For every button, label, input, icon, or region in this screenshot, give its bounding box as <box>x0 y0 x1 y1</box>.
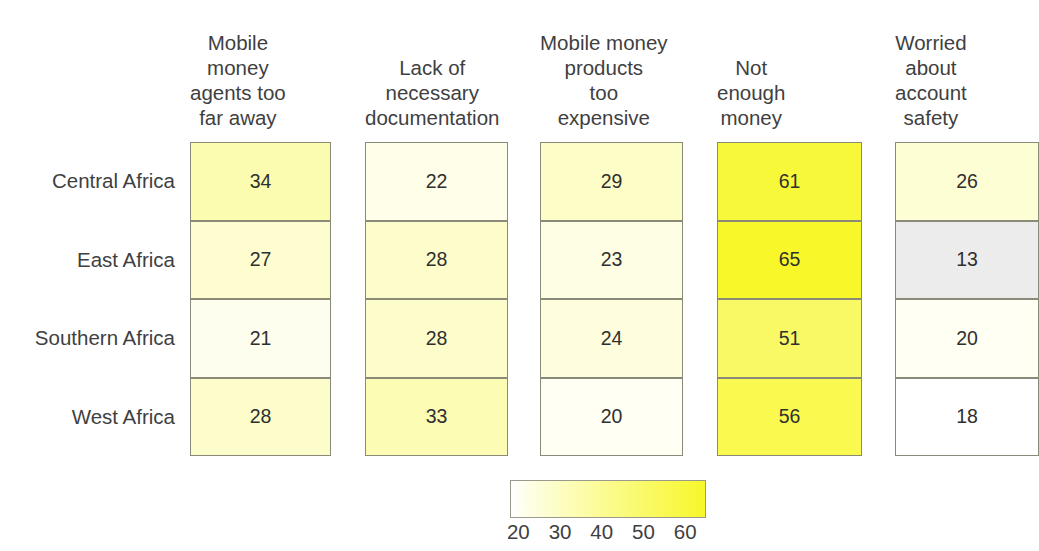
heatmap-cell: 13 <box>895 221 1039 300</box>
heatmap-cell-value: 33 <box>426 405 448 428</box>
column-header-4: Worried about account safety <box>895 0 1039 130</box>
heatmap-cell-value: 21 <box>250 327 272 350</box>
row-label-southern-africa: Southern Africa <box>0 299 175 378</box>
colorbar-tick-label: 30 <box>549 520 572 544</box>
heatmap-cell-value: 65 <box>779 248 801 271</box>
heatmap-cell: 33 <box>365 378 508 457</box>
heatmap-cell: 24 <box>540 299 683 378</box>
heatmap-cell-value: 29 <box>601 170 623 193</box>
colorbar: 2030405060 <box>510 480 706 548</box>
heatmap-cell-value: 20 <box>956 327 978 350</box>
heatmap-cell-value: 34 <box>250 170 272 193</box>
column-header-3: Not enough money <box>717 0 862 130</box>
column-header-label: Mobile money products too expensive <box>540 30 668 130</box>
heatmap-cell-value: 24 <box>601 327 623 350</box>
heatmap-cell: 29 <box>540 142 683 221</box>
heatmap-cell: 20 <box>895 299 1039 378</box>
column-header-label: Mobile money agents too far away <box>190 30 286 130</box>
heatmap-cell-value: 23 <box>601 248 623 271</box>
heatmap-cell-value: 28 <box>250 405 272 428</box>
heatmap-cell-value: 61 <box>779 170 801 193</box>
heatmap-cell: 28 <box>365 221 508 300</box>
heatmap-cell: 28 <box>190 378 331 457</box>
column-header-label: Worried about account safety <box>895 30 967 130</box>
heatmap-cell-value: 28 <box>426 248 448 271</box>
row-label-central-africa: Central Africa <box>0 142 175 221</box>
heatmap-cell: 18 <box>895 378 1039 457</box>
column-header-1: Lack of necessary documentation <box>365 0 508 130</box>
colorbar-tick-label: 50 <box>632 520 655 544</box>
row-label-west-africa: West Africa <box>0 378 175 457</box>
heatmap-cell: 26 <box>895 142 1039 221</box>
heatmap-cell-value: 28 <box>426 327 448 350</box>
heatmap-cell: 65 <box>717 221 862 300</box>
colorbar-tick-labels: 2030405060 <box>510 520 706 548</box>
heatmap-cell-value: 51 <box>779 327 801 350</box>
column-header-label: Not enough money <box>717 55 785 130</box>
heatmap-cell: 20 <box>540 378 683 457</box>
heatmap-cell: 61 <box>717 142 862 221</box>
heatmap-cell: 34 <box>190 142 331 221</box>
colorbar-tick-label: 60 <box>674 520 697 544</box>
heatmap-cell-value: 56 <box>779 405 801 428</box>
heatmap-cell-value: 13 <box>956 248 978 271</box>
colorbar-tick-label: 40 <box>590 520 613 544</box>
colorbar-tick-label: 20 <box>507 520 530 544</box>
column-header-label: Lack of necessary documentation <box>365 55 499 130</box>
heatmap-cell: 23 <box>540 221 683 300</box>
heatmap-cell-value: 18 <box>956 405 978 428</box>
heatmap-cell-value: 26 <box>956 170 978 193</box>
heatmap-cell: 28 <box>365 299 508 378</box>
heatmap-cell-value: 20 <box>601 405 623 428</box>
heatmap-cell: 51 <box>717 299 862 378</box>
column-header-2: Mobile money products too expensive <box>540 0 683 130</box>
heatmap-cell: 22 <box>365 142 508 221</box>
row-label-east-africa: East Africa <box>0 221 175 300</box>
heatmap-cell-value: 27 <box>250 248 272 271</box>
colorbar-gradient <box>510 480 706 518</box>
heatmap-cell: 56 <box>717 378 862 457</box>
column-header-0: Mobile money agents too far away <box>190 0 331 130</box>
heatmap-cell: 27 <box>190 221 331 300</box>
heatmap-cell-value: 22 <box>426 170 448 193</box>
heatmap-cell: 21 <box>190 299 331 378</box>
heatmap-figure: Mobile money agents too far away Lack of… <box>0 0 1039 551</box>
